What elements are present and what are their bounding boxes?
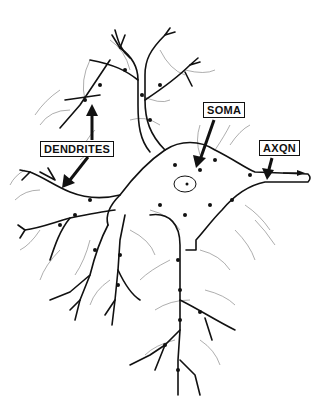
soma-label: SOMA <box>203 102 245 118</box>
upper-dendrites <box>60 28 200 152</box>
axon-label: AXQN <box>259 140 300 156</box>
dendrites-label: DENDRITES <box>40 141 114 157</box>
lower-dendrites <box>50 215 235 395</box>
neuron-diagram <box>0 0 323 404</box>
nucleolus <box>186 183 189 186</box>
dendrite-hairs <box>10 40 275 365</box>
signal-direction-arrow <box>297 170 305 176</box>
soma-body <box>107 143 310 251</box>
nucleus <box>174 176 196 192</box>
